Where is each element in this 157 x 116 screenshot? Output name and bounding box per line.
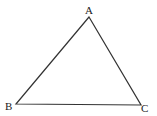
triangle-abc [16,17,141,105]
vertex-label-a: A [85,4,93,16]
triangle-diagram: A B C [0,0,157,116]
vertex-label-c: C [141,102,148,114]
vertex-label-b: B [5,100,12,112]
